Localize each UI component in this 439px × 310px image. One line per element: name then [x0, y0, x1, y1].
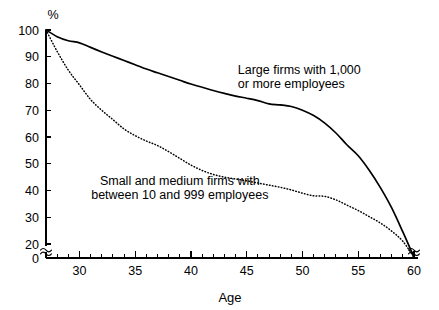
large-firms-annotation-line-2: or more employees [238, 77, 345, 91]
x-tick-label-60: 60 [407, 264, 421, 278]
large-firms-annotation-line-1: Large firms with 1,000 [238, 63, 361, 77]
small-medium-firms-annotation-line-1: Small and medium firms with [100, 174, 260, 188]
y-tick-label-50: 50 [25, 157, 39, 171]
x-tick-label-55: 55 [351, 264, 365, 278]
y-tick-label-40: 40 [25, 184, 39, 198]
x-tick-label-50: 50 [296, 264, 310, 278]
y-axis-unit-label: % [47, 8, 58, 22]
line-chart: 02030405060708090100 30354045505560 % Ag… [0, 0, 439, 310]
y-tick-label-90: 90 [25, 50, 39, 64]
x-tick-label-30: 30 [73, 264, 87, 278]
y-tick-label-0: 0 [32, 252, 39, 266]
y-tick-label-70: 70 [25, 104, 39, 118]
small-medium-firms-annotation-line-2: between 10 and 999 employees [91, 188, 268, 202]
x-tick-label-45: 45 [240, 264, 254, 278]
x-axis-title: Age [218, 290, 241, 305]
x-tick-label-40: 40 [184, 264, 198, 278]
y-tick-label-100: 100 [18, 24, 39, 38]
chart-container: 02030405060708090100 30354045505560 % Ag… [0, 0, 439, 310]
y-tick-label-20: 20 [25, 238, 39, 252]
y-tick-label-80: 80 [25, 77, 39, 91]
y-tick-label-60: 60 [25, 131, 39, 145]
chart-background [0, 0, 439, 310]
x-tick-label-35: 35 [128, 264, 142, 278]
y-tick-label-30: 30 [25, 211, 39, 225]
